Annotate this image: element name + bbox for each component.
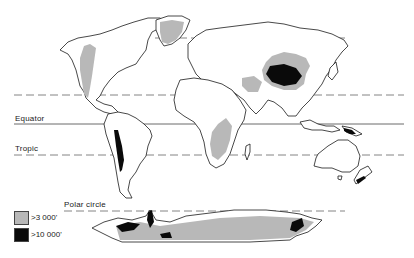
greenland-ice [160, 20, 184, 44]
legend-label-10000: >10 000' [31, 230, 62, 239]
madagascar [245, 144, 250, 160]
tropic-label: Tropic [15, 144, 38, 153]
world-elevation-map [0, 0, 414, 258]
indonesia-islands [300, 120, 340, 132]
polar-circle-label: Polar circle [64, 200, 106, 209]
australia [314, 140, 360, 172]
legend-swatch-3000 [14, 211, 29, 225]
north-america [60, 18, 166, 114]
equator-label: Equator [15, 114, 44, 123]
tasmania [338, 176, 342, 180]
legend-label-3000: >3 000' [31, 213, 57, 222]
legend-swatch-10000 [14, 228, 29, 242]
